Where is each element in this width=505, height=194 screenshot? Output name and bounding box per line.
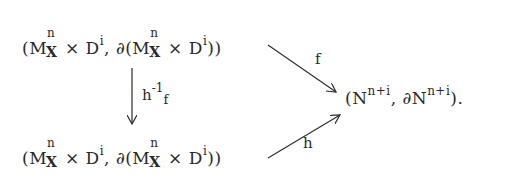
target-pair: (Nn+i, ∂Nn+i). bbox=[345, 88, 463, 108]
sup-n: n bbox=[47, 26, 55, 40]
sub-x: X bbox=[46, 154, 57, 170]
boundary-open: , ∂(M bbox=[104, 38, 150, 58]
m-open: (M bbox=[22, 38, 47, 58]
times-d-2: × D bbox=[162, 148, 203, 168]
bottom-arrow-label: h bbox=[303, 134, 313, 152]
vertical-arrow-label: h-1f bbox=[142, 86, 168, 104]
sup-i-2: i bbox=[203, 144, 207, 158]
sup-i: i bbox=[100, 34, 104, 48]
times-d: × D bbox=[59, 148, 100, 168]
close-parens: )) bbox=[207, 148, 221, 168]
n-open: (N bbox=[345, 88, 368, 108]
m-open: (M bbox=[22, 148, 47, 168]
close-period: ). bbox=[450, 88, 463, 108]
m-scripts-2: nX bbox=[150, 147, 162, 164]
sup-n: n bbox=[47, 136, 55, 150]
source-pair-top: (MnX × Di, ∂(MnX × Di)) bbox=[22, 37, 222, 58]
m-scripts-2: nX bbox=[150, 37, 162, 54]
label-inverse: -1 bbox=[152, 81, 164, 95]
sup-n-2: n bbox=[150, 26, 158, 40]
m-scripts: nX bbox=[47, 37, 59, 54]
top-arrow-label: f bbox=[315, 50, 321, 68]
boundary-n: , ∂N bbox=[391, 88, 427, 108]
sup-i: i bbox=[100, 144, 104, 158]
m-scripts: nX bbox=[47, 147, 59, 164]
close-parens: )) bbox=[207, 38, 221, 58]
sub-x-2: X bbox=[149, 154, 160, 170]
times-d: × D bbox=[59, 38, 100, 58]
top-diagonal-arrow bbox=[268, 45, 336, 92]
sup-n-plus-i-2: n+i bbox=[427, 84, 450, 98]
times-d-2: × D bbox=[162, 38, 203, 58]
label-f: f bbox=[163, 92, 168, 107]
sub-x-2: X bbox=[149, 44, 160, 60]
source-pair-bottom: (MnX × Di, ∂(MnX × Di)) bbox=[22, 147, 222, 168]
label-h: h bbox=[142, 86, 152, 104]
sub-x: X bbox=[46, 44, 57, 60]
sup-n-2: n bbox=[150, 136, 158, 150]
sup-i-2: i bbox=[203, 34, 207, 48]
sup-n-plus-i: n+i bbox=[368, 84, 391, 98]
boundary-open: , ∂(M bbox=[104, 148, 150, 168]
